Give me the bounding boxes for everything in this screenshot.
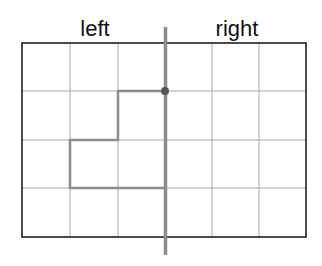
left-label: left	[80, 16, 109, 41]
reflection-diagram: left right	[0, 0, 322, 266]
right-label: right	[216, 16, 259, 41]
start-dot	[161, 87, 169, 95]
